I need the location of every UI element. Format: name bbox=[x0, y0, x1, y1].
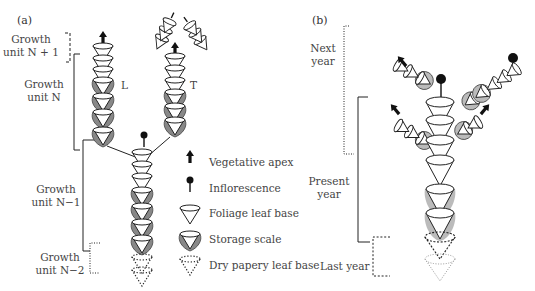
storage-scale-cone-icon bbox=[179, 231, 201, 251]
inflorescence-pin-icon bbox=[187, 177, 194, 193]
main-axis-a bbox=[131, 132, 153, 287]
inflorescence-pin-icon bbox=[141, 132, 148, 148]
vegetative-apex-arrow-icon bbox=[99, 31, 107, 44]
lateral-shoot bbox=[92, 31, 138, 158]
plant-b bbox=[388, 53, 524, 281]
year-brackets bbox=[344, 26, 390, 276]
terminal-shoot bbox=[148, 10, 213, 156]
vegetative-apex-arrow-icon bbox=[186, 150, 194, 163]
dry-papery-dotted-cone-icon bbox=[180, 256, 200, 275]
foliage-leaf-cone-icon bbox=[180, 205, 200, 224]
diagram-canvas bbox=[0, 0, 535, 291]
legend-icons bbox=[179, 150, 201, 275]
